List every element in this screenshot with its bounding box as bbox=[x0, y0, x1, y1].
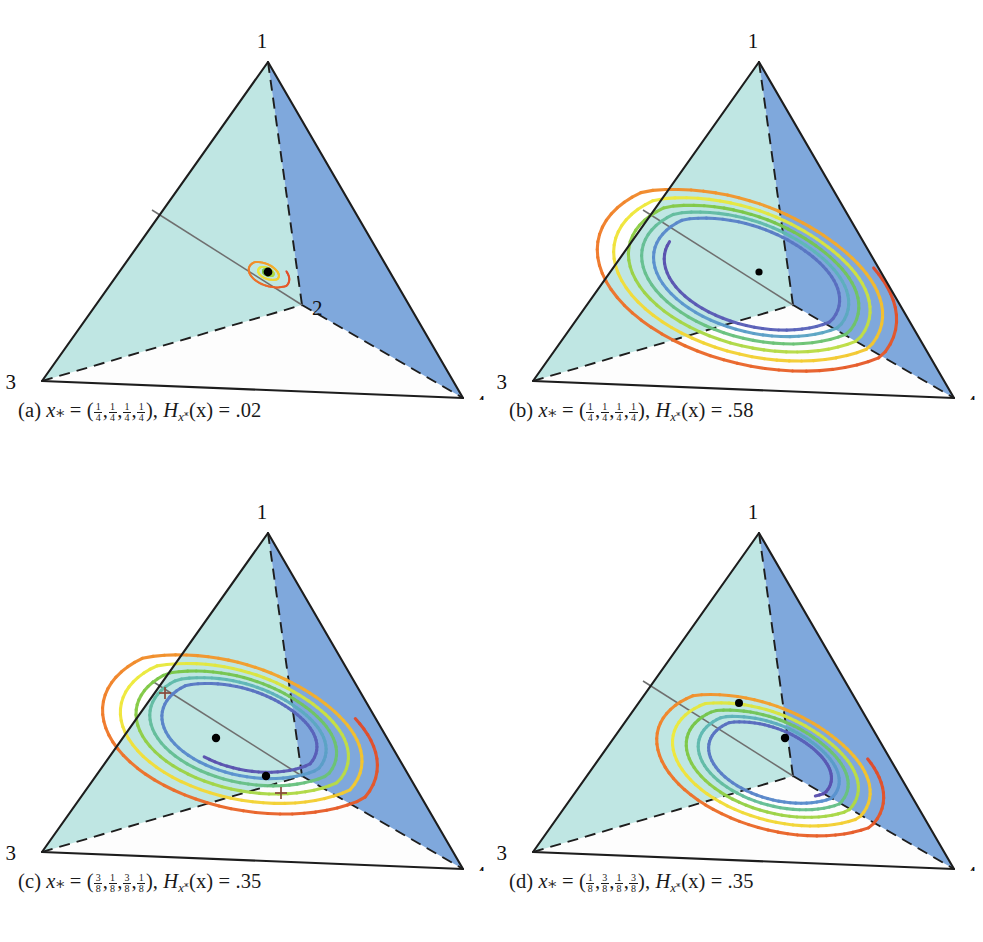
panel-d-entropy-arg: (x) bbox=[681, 870, 705, 892]
panel-a-xstar-var: x bbox=[46, 399, 55, 421]
spiral-segment bbox=[764, 359, 776, 360]
vertex-label-3: 3 bbox=[6, 841, 17, 865]
spiral-segment bbox=[698, 198, 709, 199]
spiral-segment bbox=[813, 360, 825, 361]
spiral-segment bbox=[820, 369, 833, 370]
spiral-segment bbox=[263, 803, 274, 804]
panel-c-frac-1: 38 bbox=[94, 873, 102, 895]
panel-a-entropy-value: .02 bbox=[235, 399, 261, 421]
panel-c-entropy-arg: (x) bbox=[189, 870, 213, 892]
tetra-d: 134 bbox=[497, 500, 978, 871]
panel-b-entropy-value: .58 bbox=[728, 399, 754, 421]
spiral-segment bbox=[716, 193, 728, 195]
panel-b-frac-2: 14 bbox=[601, 402, 609, 424]
tetra-c: 134 bbox=[6, 500, 487, 871]
spiral-segment bbox=[815, 795, 819, 796]
spiral-segment bbox=[765, 368, 779, 370]
panel-a-entropy-arg: (x) bbox=[189, 399, 213, 421]
panel-b-entropy-symbol: H bbox=[655, 399, 670, 421]
vertex-label-3: 3 bbox=[497, 841, 508, 865]
panel-a-svg: 1234 bbox=[0, 0, 491, 400]
vertex-label-3: 3 bbox=[6, 370, 17, 394]
spiral-segment bbox=[231, 809, 243, 811]
spiral-segment bbox=[753, 348, 764, 350]
panel-c-entropy-value: .35 bbox=[235, 870, 261, 892]
spiral-segment bbox=[673, 205, 683, 206]
spiral-segment bbox=[242, 800, 253, 802]
vertex-label-1: 1 bbox=[748, 29, 759, 53]
panel-b-svg: 134 bbox=[491, 0, 982, 400]
panel-b-caption: (b) x⁎ = (14,14,14,14), Hx⁎(x) = .58 bbox=[509, 398, 979, 426]
panel-c: 134 (c) x⁎ = (38,18,38,18), Hx⁎(x) = .35 bbox=[0, 471, 491, 942]
spiral-segment bbox=[764, 350, 775, 351]
spiral-segment bbox=[208, 657, 218, 659]
spiral-segment bbox=[704, 191, 716, 193]
panel-b-frac-4: 14 bbox=[629, 402, 637, 424]
spiral-segment bbox=[664, 198, 676, 199]
panel-c-svg: 134 bbox=[0, 471, 491, 871]
panel-d-frac-3: 18 bbox=[615, 873, 623, 895]
spiral-segment bbox=[187, 655, 198, 656]
spiral-segment bbox=[252, 802, 263, 803]
fixed-point-marker bbox=[781, 734, 789, 742]
vertex-label-3: 3 bbox=[497, 370, 508, 394]
panel-b-frac-1: 14 bbox=[586, 402, 594, 424]
spiral-segment bbox=[775, 351, 786, 352]
spiral-segment bbox=[243, 811, 255, 813]
panel-c-frac-3: 38 bbox=[123, 873, 131, 895]
panel-d-plot: 134 bbox=[491, 471, 982, 871]
panel-d-caption-index: (d) bbox=[509, 870, 533, 892]
spiral-segment bbox=[653, 190, 666, 191]
fixed-point-marker bbox=[262, 772, 270, 780]
tetra-a: 1234 bbox=[6, 29, 487, 400]
panel-a: 1234 (a) x⁎ = (14,14,14,14), Hx⁎(x) = .0… bbox=[0, 0, 491, 471]
panel-d-xstar-var: x bbox=[538, 870, 547, 892]
spiral-segment bbox=[316, 810, 327, 812]
panel-a-frac-1: 14 bbox=[94, 402, 102, 424]
spiral-segment bbox=[808, 351, 818, 352]
panel-d-frac-4: 38 bbox=[629, 873, 637, 895]
spiral-segment bbox=[752, 357, 764, 359]
panel-b-plot: 134 bbox=[491, 0, 982, 400]
panel-a-plot: 1234 bbox=[0, 0, 491, 400]
fixed-point-marker bbox=[755, 268, 762, 275]
vertex-label-2: 2 bbox=[312, 296, 323, 320]
panel-a-frac-3: 14 bbox=[123, 402, 131, 424]
panel-c-caption-index: (c) bbox=[18, 870, 41, 892]
fixed-point-marker bbox=[735, 699, 743, 707]
panel-b-caption-index: (b) bbox=[509, 399, 533, 421]
spiral-segment bbox=[198, 656, 209, 657]
panel-a-frac-2: 14 bbox=[109, 402, 117, 424]
panel-d-entropy-value: .35 bbox=[728, 870, 754, 892]
spiral-segment bbox=[777, 360, 789, 361]
panel-b: 134 (b) x⁎ = (14,14,14,14), Hx⁎(x) = .58 bbox=[491, 0, 982, 471]
panel-d-frac-1: 18 bbox=[586, 873, 594, 895]
spiral-segment bbox=[678, 189, 691, 190]
panel-c-xstar-var: x bbox=[46, 870, 55, 892]
panel-b-entropy-arg: (x) bbox=[681, 399, 705, 421]
spiral-segment bbox=[833, 368, 845, 370]
spiral-segment bbox=[691, 190, 703, 191]
panel-d-entropy-symbol: H bbox=[655, 870, 670, 892]
vertex-label-1: 1 bbox=[257, 500, 268, 524]
spiral-segment bbox=[641, 190, 653, 192]
panel-c-caption: (c) x⁎ = (38,18,38,18), Hx⁎(x) = .35 bbox=[18, 869, 488, 897]
spiral-segment bbox=[142, 656, 153, 658]
panel-c-entropy-symbol: H bbox=[163, 870, 178, 892]
panel-a-frac-4: 14 bbox=[137, 402, 145, 424]
panel-a-entropy-symbol: H bbox=[163, 399, 178, 421]
spiral-segment bbox=[751, 366, 765, 368]
vertex-label-1: 1 bbox=[748, 500, 759, 524]
fixed-point-marker bbox=[264, 268, 273, 277]
spiral-segment bbox=[667, 242, 669, 246]
spiral-segment bbox=[709, 199, 720, 201]
panel-a-caption: (a) x⁎ = (14,14,14,14), Hx⁎(x) = .02 bbox=[18, 398, 488, 426]
panel-a-caption-index: (a) bbox=[18, 399, 41, 421]
panel-c-frac-2: 18 bbox=[109, 873, 117, 895]
tetra-b: 134 bbox=[497, 29, 978, 400]
panel-c-plot: 134 bbox=[0, 471, 491, 871]
fixed-point-marker bbox=[212, 734, 220, 742]
spiral-segment bbox=[720, 201, 731, 203]
spiral-segment bbox=[806, 371, 819, 372]
panel-d-svg: 134 bbox=[491, 471, 982, 871]
